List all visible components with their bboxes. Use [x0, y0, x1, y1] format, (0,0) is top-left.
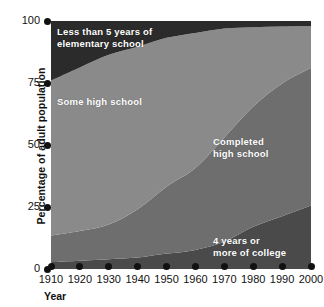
x-axis-tick-label: 2000 — [294, 274, 324, 285]
x-axis-tick-labels: 1910192019301940195019601970198019902000 — [0, 274, 324, 290]
x-axis-tick — [192, 263, 199, 270]
x-axis-tick-marks — [0, 263, 324, 271]
stacked-area-chart: Percentage of adult population 025507510… — [0, 0, 324, 307]
area-bands — [51, 21, 311, 269]
x-axis-tick — [76, 263, 83, 270]
y-axis-tick — [44, 142, 51, 149]
x-axis-tick — [134, 263, 141, 270]
x-axis-tick — [279, 263, 286, 270]
band-label-completed-high-school: Completed high school — [213, 136, 269, 159]
x-axis-title: Year — [44, 290, 66, 302]
y-axis-tick — [44, 204, 51, 211]
y-axis-tick — [44, 18, 51, 25]
band-label-college: 4 years or more of college — [213, 235, 286, 258]
y-axis-tick-label: 100 — [12, 15, 40, 26]
y-axis-tick-label: 25 — [12, 201, 40, 212]
plot-area — [51, 21, 311, 269]
y-axis-tick-label: 50 — [12, 139, 40, 150]
y-axis-tick-label: 75 — [12, 77, 40, 88]
x-axis-tick — [48, 263, 55, 270]
band-label-elementary: Less than 5 years of elementary school — [57, 26, 152, 49]
x-axis-tick — [250, 263, 257, 270]
y-axis-tick-labels: 0255075100 — [12, 0, 40, 307]
x-axis-tick — [221, 263, 228, 270]
y-axis-tick — [44, 80, 51, 87]
band-label-some-high-school: Some high school — [57, 96, 142, 108]
x-axis-tick — [105, 263, 112, 270]
x-axis-tick — [308, 263, 315, 270]
x-axis-tick — [163, 263, 170, 270]
